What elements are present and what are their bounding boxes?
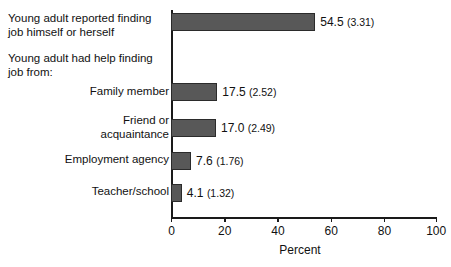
x-tick-label-100: 100 — [416, 224, 451, 238]
x-tick-40 — [277, 217, 278, 222]
x-tick-label-20: 20 — [205, 224, 245, 238]
x-tick-label-60: 60 — [311, 224, 351, 238]
bar-value-friend-or-acquaintance: 17.0 (2.49) — [221, 122, 275, 135]
bar-friend-or-acquaintance — [171, 119, 216, 137]
bar-value-employment-agency: 7.6 (1.76) — [196, 155, 243, 168]
bar-value-number: 7.6 — [196, 154, 213, 168]
bar-label-friend-or-acquaintance: Friend or acquaintance — [8, 114, 169, 141]
bar-standard-error: (1.32) — [207, 187, 234, 199]
bar-value-number: 4.1 — [187, 186, 204, 200]
bar-label-family-member: Family member — [8, 85, 169, 99]
bar-teacher-school — [171, 184, 182, 202]
bar-standard-error: (3.31) — [347, 16, 374, 28]
x-tick-label-40: 40 — [258, 224, 298, 238]
x-axis-title: Percent — [250, 243, 350, 257]
x-tick-0 — [171, 217, 172, 222]
bar-label-self-found: Young adult reported finding job himself… — [8, 12, 170, 39]
bar-label-teacher-school: Teacher/school — [8, 185, 169, 199]
bar-standard-error: (2.52) — [249, 86, 276, 98]
bar-self-found — [171, 13, 315, 31]
bar-value-family-member: 17.5 (2.52) — [222, 86, 276, 99]
bar-standard-error: (1.76) — [216, 155, 243, 167]
x-tick-label-0: 0 — [152, 224, 192, 238]
x-tick-20 — [224, 217, 225, 222]
bar-value-teacher-school: 4.1 (1.32) — [187, 187, 234, 200]
x-tick-80 — [384, 217, 385, 222]
bar-value-self-found: 54.5 (3.31) — [320, 16, 374, 29]
x-tick-60 — [331, 217, 332, 222]
section-header-help-finding-job: Young adult had help finding job from: — [8, 52, 170, 79]
bar-employment-agency — [171, 152, 191, 170]
bar-family-member — [171, 83, 217, 101]
bar-value-number: 54.5 — [320, 15, 343, 29]
bar-standard-error: (2.49) — [248, 122, 275, 134]
bar-label-employment-agency: Employment agency — [8, 153, 169, 167]
bar-value-number: 17.5 — [222, 85, 245, 99]
bar-value-number: 17.0 — [221, 121, 244, 135]
x-tick-label-80: 80 — [364, 224, 404, 238]
x-axis-line — [171, 217, 437, 219]
x-tick-100 — [436, 217, 437, 222]
